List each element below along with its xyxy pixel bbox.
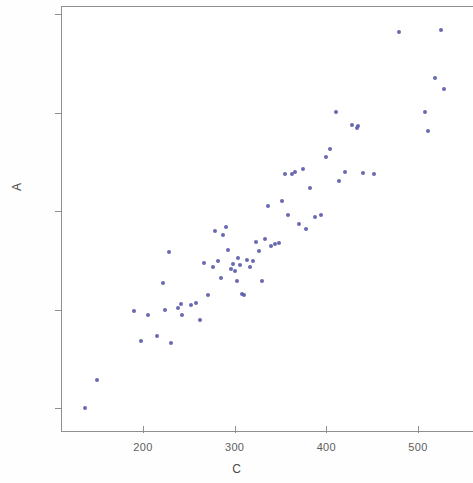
x-axis-tick-mark	[235, 426, 236, 433]
x-axis-tick-mark	[143, 426, 144, 433]
y-axis-tick-mark	[55, 408, 62, 409]
x-axis-tick-label: 500	[398, 441, 438, 453]
x-axis-tick-label: 200	[123, 441, 163, 453]
y-axis-title: A	[10, 176, 24, 198]
axis-ticks-layer: 100200300400500200300400500	[0, 0, 473, 483]
x-axis-tick-mark	[326, 426, 327, 433]
scatter-plot-figure: 100200300400500200300400500 A C	[0, 0, 473, 483]
y-axis-tick-mark	[55, 211, 62, 212]
y-axis-tick-mark	[55, 310, 62, 311]
y-axis-tick-mark	[55, 14, 62, 15]
y-axis-tick-mark	[55, 113, 62, 114]
x-axis-tick-label: 400	[306, 441, 346, 453]
x-axis-title: C	[0, 462, 473, 476]
x-axis-tick-label: 300	[215, 441, 255, 453]
x-axis-tick-mark	[418, 426, 419, 433]
